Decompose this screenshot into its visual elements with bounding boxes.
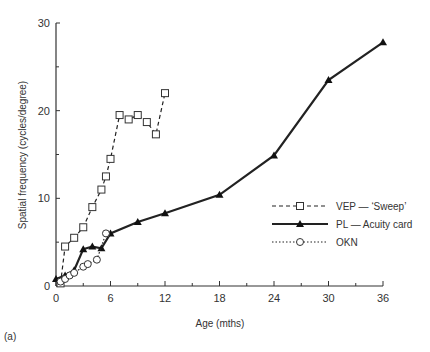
legend-label: OKN <box>336 237 358 248</box>
square-marker <box>162 90 169 97</box>
line-chart: 0102030061218243036Age (mths)Spatial fre… <box>0 0 430 352</box>
circle-marker <box>297 239 304 246</box>
circle-marker <box>93 256 100 263</box>
square-marker <box>152 131 159 138</box>
square-marker <box>107 155 114 162</box>
square-marker <box>143 119 150 126</box>
square-marker <box>102 173 109 180</box>
y-axis-label: Spatial frequency (cycles/degree) <box>17 81 28 229</box>
triangle-marker <box>379 38 387 45</box>
square-marker <box>297 203 304 210</box>
square-marker <box>125 116 132 123</box>
x-tick-label: 6 <box>107 292 113 304</box>
chart: 0102030061218243036Age (mths)Spatial fre… <box>0 0 430 352</box>
y-tick-label: 30 <box>38 17 50 29</box>
circle-marker <box>84 261 91 268</box>
x-tick-label: 24 <box>268 292 280 304</box>
x-tick-label: 36 <box>377 292 389 304</box>
x-tick-label: 30 <box>322 292 334 304</box>
x-tick-label: 12 <box>159 292 171 304</box>
y-tick-label: 10 <box>38 192 50 204</box>
circle-marker <box>102 230 109 237</box>
square-marker <box>98 186 105 193</box>
series-line <box>56 42 383 279</box>
square-marker <box>71 234 78 241</box>
x-tick-label: 18 <box>213 292 225 304</box>
y-tick-label: 0 <box>44 280 50 292</box>
square-marker <box>116 112 123 119</box>
legend-label: PL — Acuity card <box>336 219 412 230</box>
square-marker <box>134 112 141 119</box>
panel-label: (a) <box>4 331 16 342</box>
square-marker <box>89 204 96 211</box>
x-axis-label: Age (mths) <box>196 318 245 329</box>
square-marker <box>62 243 69 250</box>
square-marker <box>80 224 87 231</box>
circle-marker <box>71 269 78 276</box>
legend-label: VEP — ‘Sweep’ <box>336 201 406 212</box>
x-tick-label: 0 <box>53 292 59 304</box>
y-tick-label: 20 <box>38 105 50 117</box>
